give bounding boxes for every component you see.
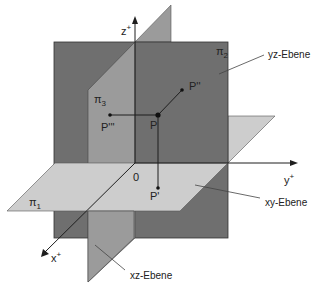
point-P [155, 112, 160, 117]
xy-plane-back [228, 116, 275, 163]
yz-plane-label: yz-Ebene [268, 49, 311, 60]
z-axis-arrow-icon [132, 16, 138, 24]
point-P1-label: P' [150, 190, 159, 202]
point-P3 [108, 113, 112, 117]
point-P-label: P [150, 119, 157, 131]
point-P2 [180, 88, 184, 92]
origin-label: 0 [133, 171, 139, 183]
x-axis-label: x+ [51, 250, 62, 264]
point-P3-label: P''' [101, 121, 115, 133]
x-axis-arrow-icon [41, 249, 49, 257]
xz-plane-label: xz-Ebene [130, 270, 173, 281]
y-axis-arrow-icon [290, 160, 298, 166]
y-axis-label: y+ [284, 172, 295, 186]
xz-plane-lower [88, 211, 134, 282]
xz-plane-back [135, 5, 171, 42]
z-axis-label: z+ [121, 23, 132, 37]
point-P2-label: P'' [189, 80, 201, 92]
xy-plane-label: xy-Ebene [265, 197, 308, 208]
coordinate-planes-diagram: z+ y+ x+ 0 π2 π3 π1 yz-Ebene xy-Ebene xz… [0, 0, 314, 295]
